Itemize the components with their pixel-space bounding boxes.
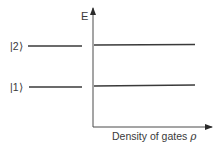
x-axis-label: Density of gates ρ xyxy=(112,131,196,142)
rho-symbol: ρ xyxy=(190,130,196,142)
x-axis-label-text: Density of gates xyxy=(112,130,187,142)
level-2-coupled-line xyxy=(94,45,195,46)
energy-level-diagram xyxy=(0,0,224,148)
level-2-label: |2⟩ xyxy=(10,41,23,52)
y-axis-label: E xyxy=(81,11,88,22)
level-1-coupled-line xyxy=(94,85,195,86)
level-1-label: |1⟩ xyxy=(10,82,23,93)
